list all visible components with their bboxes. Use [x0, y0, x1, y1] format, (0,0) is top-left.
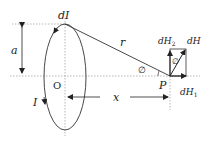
angle-arc	[158, 71, 159, 76]
label-angle-P: ∅	[138, 65, 146, 75]
label-dH1-sub: 1	[194, 91, 198, 98]
label-x: x	[113, 91, 120, 104]
diagram-canvas: dI a r ∅ ∅ O I x P dH2 dH dH1	[0, 0, 209, 141]
label-dH1-main: dH	[180, 87, 194, 97]
label-angle-box: ∅	[172, 57, 179, 66]
label-dH2: dH2	[158, 36, 176, 47]
r-line	[65, 24, 170, 76]
label-dH2-sub: 2	[172, 40, 176, 47]
label-P: P	[158, 79, 167, 92]
current-arrow-bottom-icon	[44, 97, 45, 104]
label-dI: dI	[58, 9, 70, 22]
label-r: r	[120, 36, 126, 49]
label-I: I	[32, 96, 38, 109]
label-dH1: dH1	[180, 87, 197, 98]
label-O: O	[53, 80, 61, 91]
label-dH2-main: dH	[158, 36, 172, 46]
label-dH: dH	[187, 36, 201, 46]
label-a: a	[11, 44, 18, 57]
